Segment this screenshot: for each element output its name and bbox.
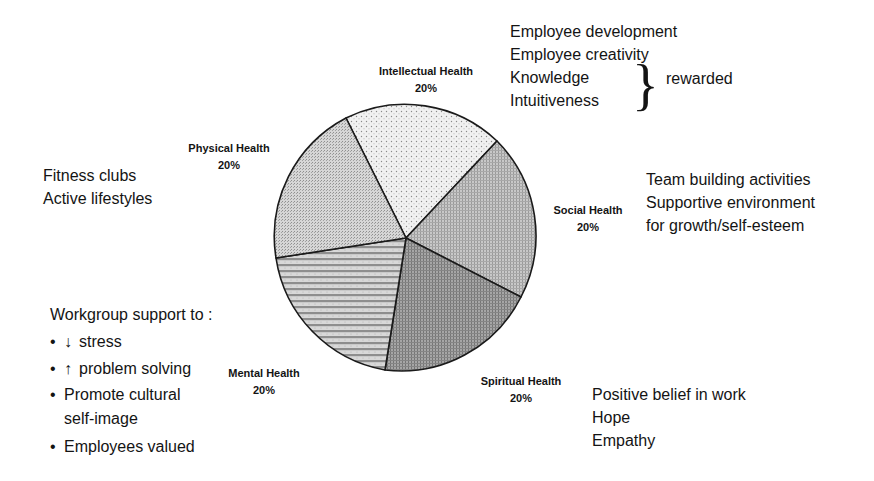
slice-name: Mental Health — [228, 365, 300, 382]
bullet-item: •Employees valued — [50, 434, 212, 461]
slice-name: Intellectual Health — [379, 63, 473, 80]
bullet: • — [50, 434, 64, 460]
bullet-continuation: self-image — [50, 407, 212, 434]
annotation-line: Active lifestyles — [43, 187, 152, 210]
bullet-text: Promote cultural — [64, 386, 181, 403]
bullet-item: •↓stress — [50, 329, 212, 356]
annotation-line: Positive belief in work — [592, 383, 746, 406]
bullet: • — [50, 383, 64, 407]
bullet-text: problem solving — [79, 360, 191, 377]
annotation-rewarded: rewarded — [666, 67, 733, 90]
label-mental-health: Mental Health 20% — [228, 365, 300, 399]
label-spiritual-health: Spiritual Health 20% — [481, 373, 562, 407]
slice-percent: 20% — [553, 219, 622, 236]
right-brace-icon: } — [632, 57, 659, 113]
slice-percent: 20% — [481, 390, 562, 407]
bullet-text: stress — [79, 333, 122, 350]
annotation-mental: Workgroup support to : •↓stress •↑proble… — [50, 302, 212, 461]
slice-name: Spiritual Health — [481, 373, 562, 390]
annotation-line: Supportive environment — [646, 191, 815, 214]
bullet-text: Employees valued — [64, 438, 195, 455]
down-arrow-icon: ↓ — [64, 329, 79, 355]
annotation-line: for growth/self-esteem — [646, 214, 815, 237]
slice-mental-health — [276, 238, 406, 370]
slice-name: Social Health — [553, 202, 622, 219]
bullet: • — [50, 329, 64, 355]
label-intellectual-health: Intellectual Health 20% — [379, 63, 473, 97]
bullet-item: •↑problem solving — [50, 356, 212, 383]
slice-percent: 20% — [188, 157, 269, 174]
bullet: • — [50, 356, 64, 382]
slice-percent: 20% — [379, 80, 473, 97]
annotation-line: Team building activities — [646, 168, 815, 191]
annotation-social: Team building activities Supportive envi… — [646, 168, 815, 237]
label-physical-health: Physical Health 20% — [188, 140, 269, 174]
annotation-line: Hope — [592, 406, 746, 429]
bullet-item: •Promote cultural — [50, 383, 212, 407]
annotation-line: Empathy — [592, 429, 746, 452]
annotation-physical: Fitness clubs Active lifestyles — [43, 164, 152, 210]
slice-name: Physical Health — [188, 140, 269, 157]
annotation-line: Fitness clubs — [43, 164, 152, 187]
annotation-heading: Workgroup support to : — [50, 302, 212, 329]
slice-percent: 20% — [228, 382, 300, 399]
label-social-health: Social Health 20% — [553, 202, 622, 236]
annotation-line: Employee development — [510, 20, 677, 43]
up-arrow-icon: ↑ — [64, 356, 79, 382]
annotation-spiritual: Positive belief in work Hope Empathy — [592, 383, 746, 452]
